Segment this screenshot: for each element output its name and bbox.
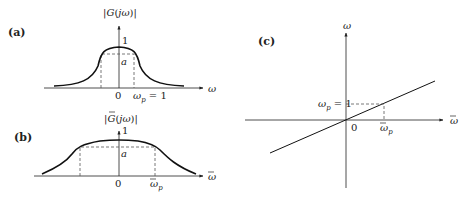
panel-b-dashed-guides — [80, 147, 155, 176]
panel-a-cutoff-label: ωp = 1 — [133, 90, 167, 104]
panel-c-origin-label: 0 — [351, 122, 357, 133]
panel-b-origin-label: 0 — [115, 178, 121, 189]
panel-a-dashed-guides — [101, 54, 134, 88]
panel-a-level-label: a — [121, 56, 127, 67]
panel-b-tag: (b) — [14, 131, 32, 144]
panel-a-tag: (a) — [8, 26, 26, 39]
panel-c-x-point-label: ωp — [380, 122, 393, 136]
panel-b: (b) |G(jω)| 1 a 0 ωp ω — [14, 112, 216, 192]
panel-a: (a) |G(jω)| 1 a 0 ωp = 1 ω — [8, 7, 216, 104]
panel-c-xlabel: ω — [450, 115, 458, 126]
panel-c-mapping-line — [270, 81, 435, 153]
panel-b-ylabel: |G(jω)| — [104, 113, 138, 125]
panel-c-y-point-label: ωp = 1 — [318, 98, 352, 112]
panel-b-xlabel: ω — [208, 171, 216, 182]
panel-b-peak-label: 1 — [122, 125, 128, 136]
panel-a-peak-label: 1 — [122, 35, 128, 46]
panel-b-level-label: a — [121, 148, 127, 159]
panel-b-cutoff-label: ωp — [150, 178, 163, 192]
panel-a-origin-label: 0 — [115, 90, 121, 101]
panel-c-ylabel: ω — [343, 20, 351, 31]
panel-c-tag: (c) — [258, 35, 275, 48]
figure: (a) |G(jω)| 1 a 0 ωp = 1 ω (b) |G(jω)| 1… — [0, 0, 472, 201]
panel-a-ylabel: |G(jω)| — [103, 7, 137, 19]
panel-a-xlabel: ω — [208, 83, 216, 94]
panel-c: (c) ω ωp = 1 0 ωp ω — [245, 20, 458, 188]
